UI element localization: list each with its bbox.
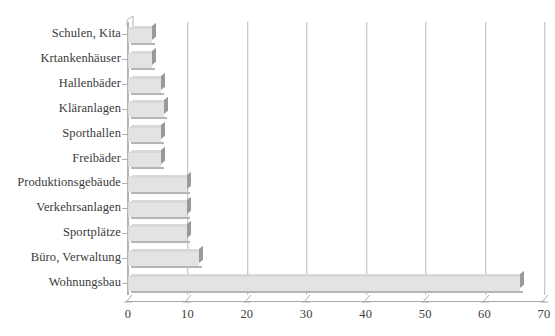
- y-tick-4: [122, 109, 128, 110]
- x-tick-label-40: 40: [346, 307, 386, 322]
- bar-shadow-4: [131, 117, 167, 119]
- category-label-8: Verkehrsanlagen: [0, 201, 121, 214]
- x-tick-label-10: 10: [167, 307, 207, 322]
- bar-7: [128, 177, 187, 192]
- category-label-4: Kläranlagen: [0, 102, 121, 115]
- x-tick-label-0: 0: [108, 307, 148, 322]
- category-label-11: Wohnungsbau: [0, 276, 121, 289]
- x-tick-label-70: 70: [524, 307, 555, 322]
- category-label-6: Freibäder: [0, 152, 121, 165]
- x-tick-label-50: 50: [405, 307, 445, 322]
- gridline-40: [366, 22, 367, 295]
- bar-shadow-7: [131, 192, 190, 194]
- bar-10: [128, 251, 199, 266]
- gridline-70: [544, 22, 545, 295]
- category-label-9: Sportplätze: [0, 226, 121, 239]
- category-label-10: Büro, Verwaltung: [0, 251, 121, 264]
- y-tick-8: [122, 208, 128, 209]
- bar-shadow-2: [131, 68, 155, 70]
- y-tick-7: [122, 183, 128, 184]
- bar-2: [128, 53, 152, 68]
- y-tick-9: [122, 233, 128, 234]
- y-tick-5: [122, 134, 128, 135]
- bar-5: [128, 127, 161, 142]
- category-label-3: Hallenbäder: [0, 77, 121, 90]
- bar-11: [128, 276, 520, 291]
- x-tick-label-20: 20: [227, 307, 267, 322]
- bar-4: [128, 102, 164, 117]
- bar-3: [128, 78, 161, 93]
- bar-9: [128, 226, 187, 241]
- category-label-7: Produktionsgebäude: [0, 176, 121, 189]
- category-label-5: Sporthallen: [0, 127, 121, 140]
- gridline-30: [306, 22, 307, 295]
- bar-shadow-5: [131, 142, 164, 144]
- gridline-20: [247, 22, 248, 295]
- y-tick-2: [122, 59, 128, 60]
- bar-shadow-1: [131, 43, 155, 45]
- bar-shadow-11: [131, 291, 523, 293]
- x-tick-label-30: 30: [286, 307, 326, 322]
- x-axis-line: [127, 301, 545, 302]
- y-tick-10: [122, 258, 128, 259]
- bar-shadow-9: [131, 241, 190, 243]
- bar-shadow-8: [131, 217, 190, 219]
- bar-shadow-10: [131, 266, 202, 268]
- y-tick-11: [122, 283, 128, 284]
- bar-shadow-6: [131, 167, 164, 169]
- y-tick-1: [122, 34, 128, 35]
- bar-1: [128, 28, 152, 43]
- x-tick-label-60: 60: [465, 307, 505, 322]
- y-tick-3: [122, 84, 128, 85]
- gridline-60: [485, 22, 486, 295]
- bar-6: [128, 152, 161, 167]
- bar-shadow-3: [131, 93, 164, 95]
- category-label-1: Schulen, Kita: [0, 27, 121, 40]
- gridline-50: [425, 22, 426, 295]
- y-tick-6: [122, 159, 128, 160]
- bar-8: [128, 202, 187, 217]
- category-label-2: Krtankenhäuser: [0, 52, 121, 65]
